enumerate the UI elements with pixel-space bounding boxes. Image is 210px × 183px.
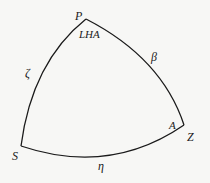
angle-label-lha: LHA	[78, 28, 100, 40]
angle-label-a: A	[168, 119, 176, 131]
side-label-beta: β	[150, 50, 157, 64]
spherical-triangle-diagram: P LHA β ζ A Z S η	[0, 0, 210, 183]
vertex-label-p: P	[74, 9, 83, 23]
arc-pz	[86, 19, 184, 125]
side-label-eta: η	[98, 159, 104, 173]
side-label-zeta: ζ	[25, 66, 31, 80]
vertex-label-s: S	[12, 149, 18, 163]
vertex-label-z: Z	[187, 130, 194, 144]
arc-sz	[21, 125, 184, 157]
arc-ps	[21, 19, 86, 146]
